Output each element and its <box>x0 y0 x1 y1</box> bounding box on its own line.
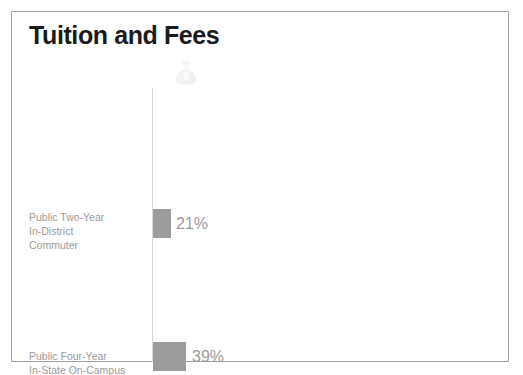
table-row: Public Four-Year Out-of-State On-Campus <box>0 236 523 284</box>
infographic-canvas: Tuition and Fees $ Public Two-Year In-Di… <box>0 0 523 375</box>
bar-value-label: 21% <box>176 216 208 232</box>
bar-public-two-year-in-district-commuter <box>153 209 171 238</box>
table-row: Public Four-Year In-State On-Campus 39% <box>0 172 523 212</box>
table-row: Public Two-Year In-District Commuter 21% <box>0 104 523 150</box>
table-row: Private Nonprofit Four-Year On-Campus <box>0 304 523 352</box>
tuition-and-fees-bar-chart: Public Two-Year In-District Commuter 21%… <box>0 0 523 375</box>
bar-category-label: Public Four-Year In-State On-Campus <box>29 349 147 375</box>
